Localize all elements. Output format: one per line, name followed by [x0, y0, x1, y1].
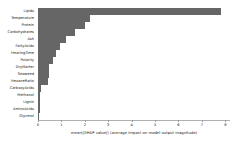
x-tick-label: 3 [107, 123, 109, 127]
x-tick-mark [155, 120, 156, 122]
bar [38, 85, 41, 92]
x-tick-mark [225, 120, 226, 122]
bar-row [38, 99, 230, 106]
bar [38, 92, 40, 99]
bar-row [38, 78, 230, 85]
y-tick-label: CarboxyAcids [10, 85, 34, 92]
bar [38, 78, 48, 85]
x-tick-mark [85, 120, 86, 122]
bar [38, 99, 40, 106]
bar-row [38, 8, 230, 15]
bar-row [38, 22, 230, 29]
bar-row [38, 113, 230, 120]
y-tick-label: Protein [21, 22, 34, 29]
y-tick-label: Lignin [23, 99, 34, 106]
y-tick-label: HeatingTime [11, 50, 34, 57]
y-tick-label: Seaweed [18, 71, 34, 78]
shap-feature-importance-chart: LipidsTemperatureProteinCarbohydratesAsh… [0, 0, 238, 145]
y-tick-label: HexaneRatio [11, 78, 34, 85]
x-tick-mark [202, 120, 203, 122]
bar [38, 71, 49, 78]
bar-row [38, 15, 230, 22]
bar [38, 106, 40, 113]
bar-row [38, 92, 230, 99]
x-tick-label: 8 [224, 123, 226, 127]
bar-row [38, 29, 230, 36]
x-tick-label: 5 [154, 123, 156, 127]
bar [38, 43, 60, 50]
x-tick-label: 0 [37, 123, 39, 127]
bar [38, 8, 221, 15]
bar [38, 113, 39, 120]
y-tick-label: Temperature [11, 15, 34, 22]
plot-area [38, 8, 230, 120]
y-tick-label: Glycerol [19, 113, 34, 120]
x-tick-mark [38, 120, 39, 122]
x-tick-mark [61, 120, 62, 122]
x-axis-label: mean(|SHAP value|) (average impact on mo… [38, 130, 230, 135]
bar [38, 29, 75, 36]
x-tick-mark [178, 120, 179, 122]
bar-row [38, 57, 230, 64]
y-tick-label: Methanol [17, 92, 34, 99]
bar-row [38, 71, 230, 78]
bar [38, 57, 53, 64]
y-tick-label: Lipids [24, 8, 34, 15]
y-tick-label: DryMatter [16, 64, 34, 71]
bar-row [38, 50, 230, 57]
bar [38, 64, 49, 71]
x-tick-mark [132, 120, 133, 122]
x-tick-label: 1 [60, 123, 62, 127]
x-tick-label: 2 [84, 123, 86, 127]
bar-row [38, 106, 230, 113]
y-tick-label: AminoAcids [13, 106, 34, 113]
x-tick-label: 4 [131, 123, 133, 127]
bar [38, 50, 56, 57]
bar-row [38, 85, 230, 92]
y-tick-label: FattyAcids [16, 43, 34, 50]
y-axis-category-labels: LipidsTemperatureProteinCarbohydratesAsh… [0, 8, 36, 120]
x-tick-mark [108, 120, 109, 122]
bar [38, 15, 90, 22]
y-tick-label: Carbohydrates [7, 29, 34, 36]
bar [38, 36, 66, 43]
bar-row [38, 64, 230, 71]
x-tick-label: 6 [177, 123, 179, 127]
bar-row [38, 36, 230, 43]
y-tick-label: Polarity [21, 57, 34, 64]
bar [38, 22, 85, 29]
bar-row [38, 43, 230, 50]
y-tick-label: Ash [27, 36, 34, 43]
x-tick-label: 7 [201, 123, 203, 127]
